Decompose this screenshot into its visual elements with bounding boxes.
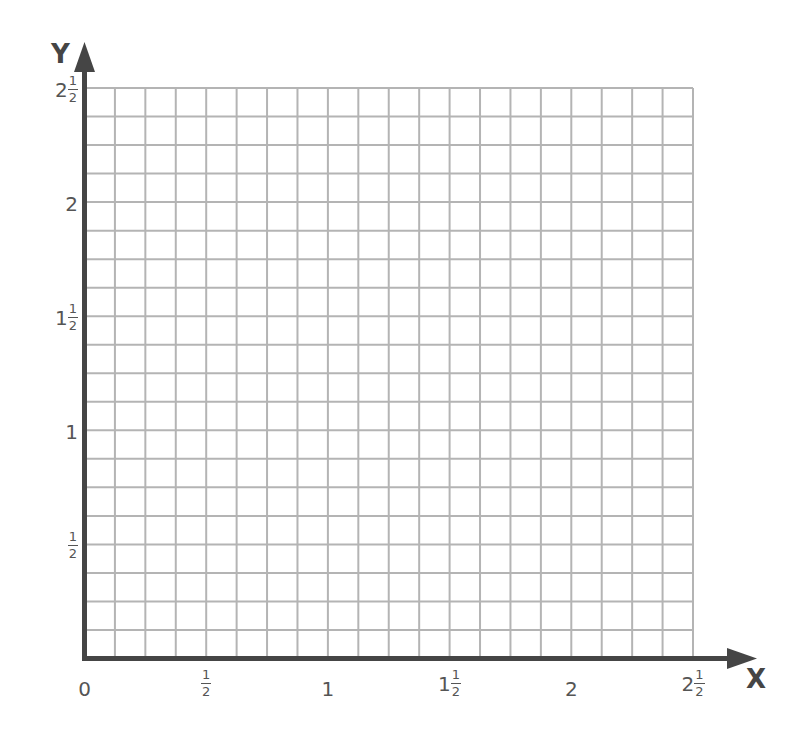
tick-fraction: 12 — [694, 668, 704, 698]
tick-whole: 1 — [322, 677, 335, 701]
x-tick-label: 212 — [663, 668, 723, 698]
y-axis-arrow-icon — [74, 42, 95, 72]
tick-fraction: 12 — [201, 668, 211, 698]
x-tick-label: 1 — [298, 677, 358, 699]
tick-whole: 1 — [438, 671, 451, 695]
tick-fraction: 12 — [451, 668, 461, 698]
y-tick-label: 12 — [30, 530, 78, 560]
grid-canvas — [0, 0, 808, 736]
tick-whole: 1 — [65, 420, 78, 444]
tick-whole: 0 — [78, 677, 91, 701]
y-tick-label: 212 — [30, 74, 78, 104]
x-tick-label: 12 — [176, 668, 236, 698]
tick-fraction: 12 — [68, 74, 78, 104]
tick-whole: 2 — [65, 192, 78, 216]
tick-whole: 2 — [55, 77, 68, 101]
grid-lines — [85, 88, 694, 659]
tick-whole: 1 — [55, 305, 68, 329]
tick-fraction: 12 — [68, 530, 78, 560]
y-tick-label: 112 — [30, 302, 78, 332]
tick-fraction: 12 — [68, 302, 78, 332]
coordinate-grid-diagram: Y X 01211122212 1211122212 — [0, 0, 808, 736]
x-axis-label: X — [746, 664, 766, 694]
y-tick-label: 2 — [30, 192, 78, 214]
x-tick-label: 2 — [541, 677, 601, 699]
x-tick-label: 112 — [420, 668, 480, 698]
tick-whole: 2 — [565, 677, 578, 701]
tick-whole: 2 — [681, 671, 694, 695]
x-tick-label: 0 — [55, 677, 115, 699]
y-tick-label: 1 — [30, 420, 78, 442]
y-axis-label: Y — [51, 39, 70, 69]
